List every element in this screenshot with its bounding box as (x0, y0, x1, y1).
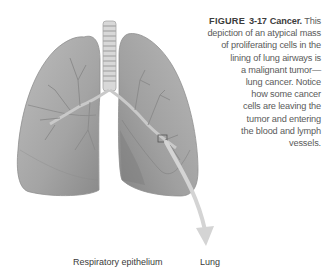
caption-line: depiction of an atypical mass (207, 28, 321, 38)
caption-line: a malignant tumor— (241, 65, 321, 75)
figure-number: 3-17 (249, 16, 267, 26)
caption-line: the blood and lymph (241, 126, 321, 136)
caption-line: of proliferating cells in the (221, 40, 321, 50)
caption-line: vessels. (289, 138, 321, 148)
caption-line: how some cancer (251, 89, 321, 99)
trachea (103, 21, 116, 91)
caption-line: cells are leaving the (243, 101, 321, 111)
label-lung: Lung (200, 257, 220, 267)
figure-title: Cancer. (270, 16, 302, 26)
figure-caption: FIGURE3-17Cancer. This depiction of an a… (171, 15, 321, 149)
caption-line: lining of lung airways is (230, 53, 321, 63)
figure-label: FIGURE (209, 16, 245, 26)
caption-line: lung cancer. Notice (246, 77, 321, 87)
caption-line: This (304, 16, 321, 26)
label-respiratory-epithelium: Respiratory epithelium (73, 257, 163, 267)
caption-line: tumor and entering (247, 114, 321, 124)
